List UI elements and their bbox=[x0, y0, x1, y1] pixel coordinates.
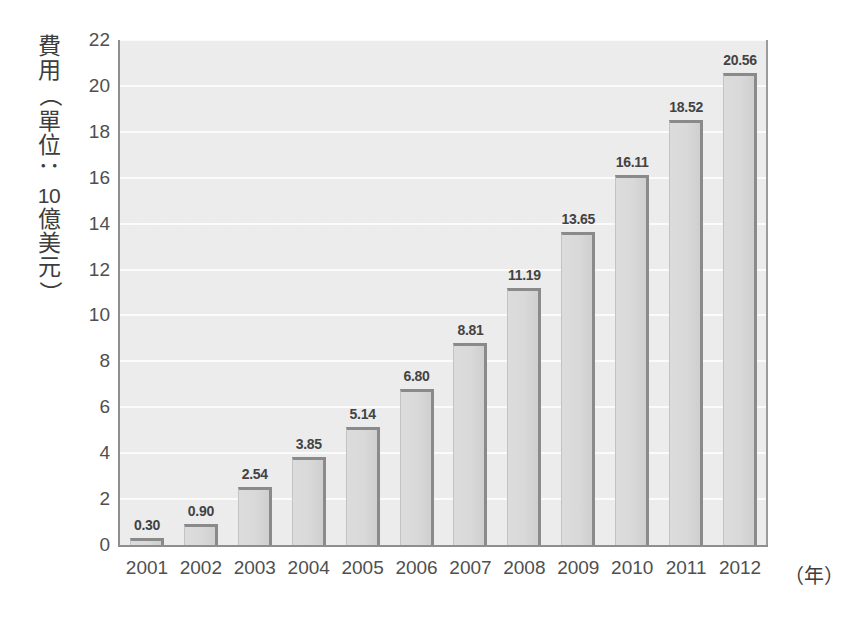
bar-value-label: 8.81 bbox=[440, 322, 500, 338]
bar-value-label: 3.85 bbox=[279, 436, 339, 452]
y-axis-title-char: 10 bbox=[38, 185, 60, 207]
y-axis-tick-label: 10 bbox=[70, 304, 110, 326]
bar-value-label: 16.11 bbox=[602, 154, 662, 170]
bar-value-label: 6.80 bbox=[387, 368, 447, 384]
y-axis-title-char: ） bbox=[38, 281, 61, 304]
bar-value-label: 5.14 bbox=[333, 406, 393, 422]
bar bbox=[723, 73, 757, 545]
y-axis-tick-label: 6 bbox=[70, 396, 110, 418]
bar bbox=[184, 524, 218, 545]
y-axis-title-char: 美 bbox=[38, 231, 61, 255]
y-axis-title-char: （ bbox=[38, 84, 61, 107]
bar bbox=[130, 538, 164, 545]
gridline bbox=[120, 85, 767, 87]
y-axis-tick-label: 18 bbox=[70, 121, 110, 143]
y-axis-title-char: 費 bbox=[38, 34, 61, 58]
bar-value-label: 0.30 bbox=[117, 517, 177, 533]
plot-area bbox=[120, 40, 767, 545]
y-axis-tick-label: 22 bbox=[70, 29, 110, 51]
bar bbox=[561, 232, 595, 545]
bar bbox=[346, 427, 380, 545]
x-axis-line bbox=[118, 545, 768, 547]
bar-value-label: 2.54 bbox=[225, 466, 285, 482]
bar bbox=[669, 120, 703, 545]
bar-chart-figure: 費用（單位：10億美元） 0246810121416182022 0.300.9… bbox=[0, 0, 865, 623]
gridline bbox=[120, 40, 767, 41]
bar bbox=[615, 175, 649, 545]
y-axis-title-char: ： bbox=[38, 160, 61, 183]
bar-value-label: 20.56 bbox=[710, 52, 770, 68]
y-axis-tick-label: 4 bbox=[70, 442, 110, 464]
y-axis-title-char: 億 bbox=[38, 207, 61, 231]
bar-value-label: 11.19 bbox=[494, 267, 554, 283]
bar bbox=[453, 343, 487, 545]
plot-right-border bbox=[766, 40, 768, 547]
y-axis-tick-label: 20 bbox=[70, 75, 110, 97]
bar-value-label: 13.65 bbox=[548, 211, 608, 227]
y-axis-tick-label: 2 bbox=[70, 488, 110, 510]
x-axis-tick-label: 2012 bbox=[708, 557, 772, 579]
x-axis-title: （年） bbox=[784, 560, 844, 589]
y-axis-title-char: 用 bbox=[38, 58, 61, 82]
y-axis-title-char: 單 bbox=[38, 109, 61, 133]
bar-value-label: 0.90 bbox=[171, 503, 231, 519]
y-axis-line bbox=[118, 40, 120, 547]
bar bbox=[292, 457, 326, 545]
y-axis-tick-label: 8 bbox=[70, 350, 110, 372]
y-axis-tick-label: 12 bbox=[70, 259, 110, 281]
bar-value-label: 18.52 bbox=[656, 99, 716, 115]
bar bbox=[400, 389, 434, 545]
bar bbox=[238, 487, 272, 545]
y-axis-tick-label: 14 bbox=[70, 213, 110, 235]
y-axis-tick-labels: 0246810121416182022 bbox=[66, 0, 110, 623]
y-axis-tick-label: 16 bbox=[70, 167, 110, 189]
bar bbox=[507, 288, 541, 545]
y-axis-title-char: 位 bbox=[38, 133, 61, 157]
y-axis-title-char: 元 bbox=[38, 255, 61, 279]
y-axis-tick-label: 0 bbox=[70, 534, 110, 556]
